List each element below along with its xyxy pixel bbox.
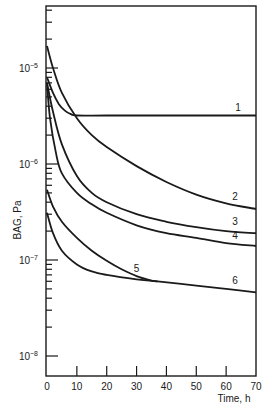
y-axis-label: BAG, Pa <box>12 200 23 239</box>
curve-1 <box>47 77 256 115</box>
x-tick-label: 10 <box>71 381 83 392</box>
curve-label-2: 2 <box>232 191 238 202</box>
y-tick-label: 10−5 <box>19 62 38 74</box>
curve-label-6: 6 <box>232 275 238 286</box>
curve-5 <box>47 190 158 282</box>
x-tick-label: 30 <box>131 381 143 392</box>
y-tick-label: 10−7 <box>19 254 38 266</box>
curve-label-5: 5 <box>134 263 140 274</box>
x-axis-ticks: 010203040506070 <box>44 366 262 392</box>
data-curves <box>47 46 256 293</box>
curve-labels: 123456 <box>134 102 242 287</box>
curve-label-1: 1 <box>235 102 241 113</box>
x-tick-label: 70 <box>250 381 262 392</box>
curve-label-4: 4 <box>232 230 238 241</box>
x-tick-label: 40 <box>161 381 173 392</box>
x-tick-label: 20 <box>101 381 113 392</box>
x-tick-label: 50 <box>191 381 203 392</box>
x-tick-label: 60 <box>221 381 233 392</box>
chart: 10−510−610−710−8 010203040506070 123456 … <box>0 0 267 406</box>
x-tick-label: 0 <box>44 381 50 392</box>
curve-6 <box>47 213 256 293</box>
plot-frame <box>46 6 256 376</box>
curve-4 <box>47 83 256 246</box>
curve-3 <box>47 83 256 233</box>
x-axis-label: Time, h <box>218 393 251 404</box>
curve-2 <box>47 46 256 209</box>
curve-label-3: 3 <box>232 216 238 227</box>
y-tick-label: 10−6 <box>19 158 38 170</box>
y-tick-label: 10−8 <box>19 350 38 362</box>
